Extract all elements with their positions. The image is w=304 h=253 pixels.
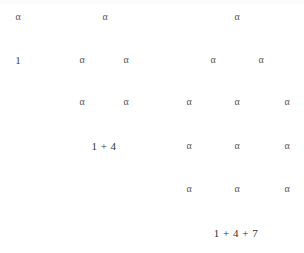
- alpha-symbol: α: [234, 184, 239, 194]
- alpha-symbol: α: [186, 184, 191, 194]
- top-strip: [0, 0, 304, 4]
- alpha-symbol: α: [79, 97, 84, 107]
- alpha-symbol: α: [234, 12, 239, 22]
- row-label-one: 1: [15, 55, 21, 66]
- alpha-symbol: α: [258, 55, 263, 65]
- alpha-symbol: α: [15, 12, 20, 22]
- left-figure-caption: 1 + 4: [91, 141, 116, 152]
- alpha-symbol: α: [210, 55, 215, 65]
- alpha-symbol: α: [284, 97, 289, 107]
- alpha-symbol: α: [186, 141, 191, 151]
- alpha-symbol: α: [102, 12, 107, 22]
- alpha-symbol: α: [284, 141, 289, 151]
- alpha-symbol: α: [123, 97, 128, 107]
- right-figure-caption: 1 + 4 + 7: [214, 228, 258, 239]
- alpha-symbol: α: [186, 97, 191, 107]
- alpha-symbol: α: [123, 55, 128, 65]
- alpha-symbol: α: [79, 55, 84, 65]
- alpha-symbol: α: [234, 141, 239, 151]
- alpha-symbol: α: [284, 184, 289, 194]
- alpha-symbol: α: [234, 97, 239, 107]
